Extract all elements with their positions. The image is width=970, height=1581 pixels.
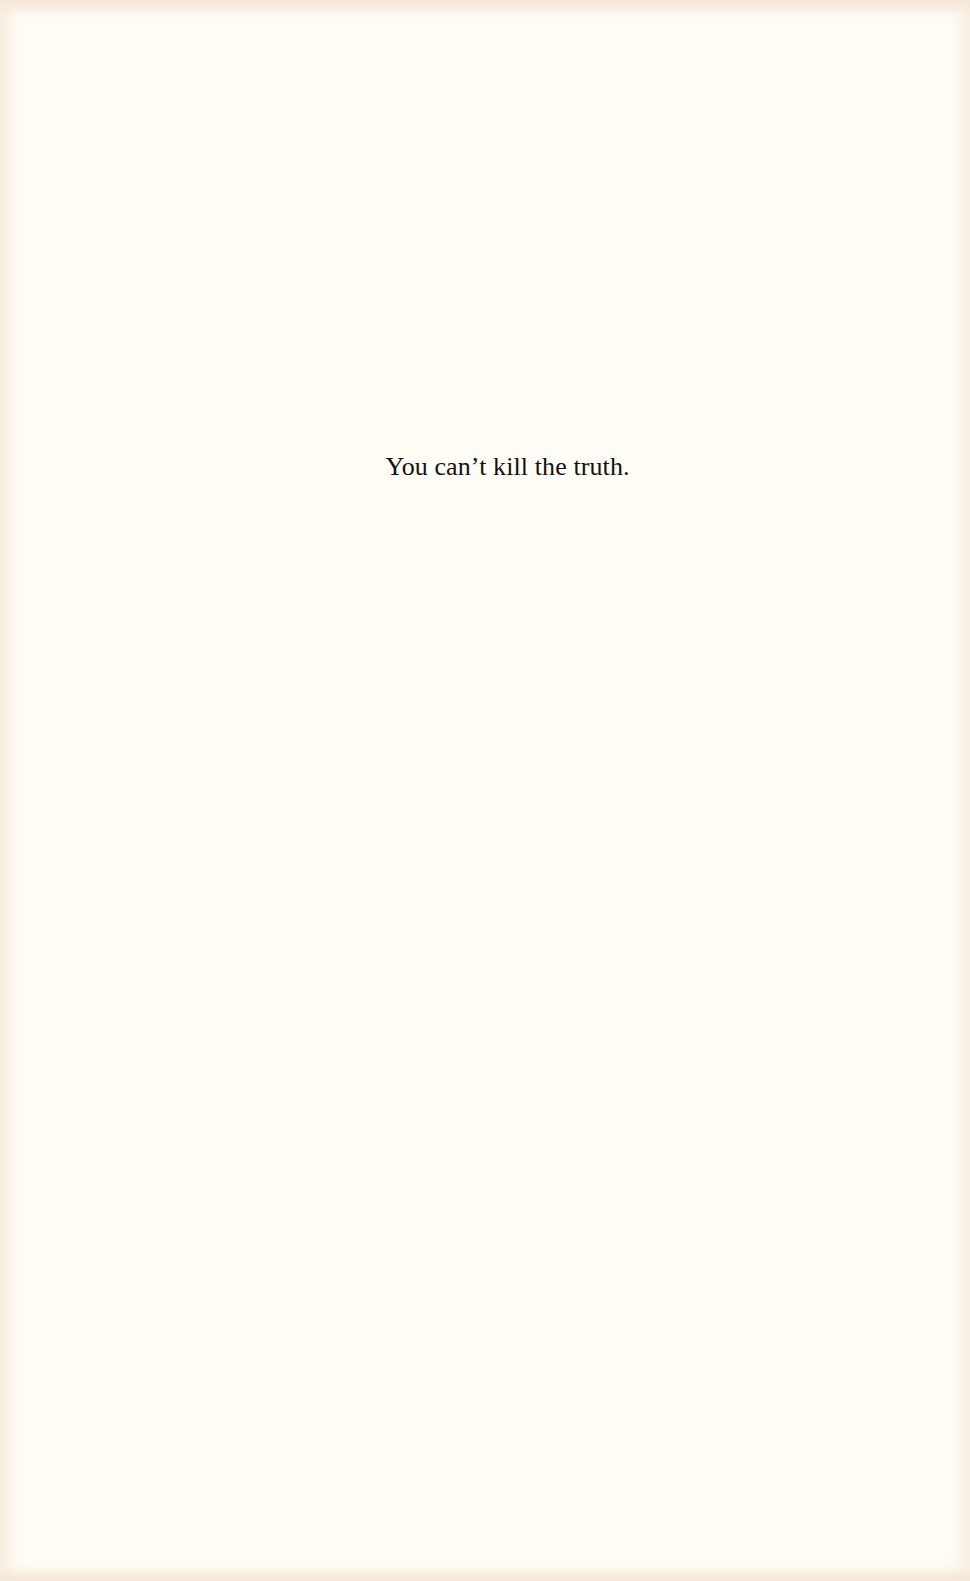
book-page: You can’t kill the truth. (0, 0, 970, 1581)
epigraph-text: You can’t kill the truth. (0, 452, 970, 482)
